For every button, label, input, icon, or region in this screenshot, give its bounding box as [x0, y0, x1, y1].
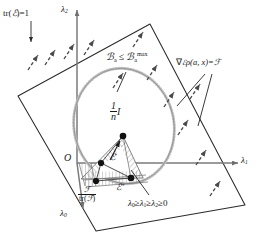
s-over-trace-s-label: ℱ tr(ℱ) [78, 186, 96, 203]
trace-constraint-label: tr(ℰ)=1 [3, 9, 29, 18]
identity-point-label: 1 n I [110, 101, 120, 122]
le-symbol: ≤ [117, 51, 127, 62]
a-double-prime-label: ℰ″ [116, 183, 125, 192]
leader-gradient-b [198, 74, 212, 126]
dot-a-prime [98, 160, 104, 166]
figure-canvas: tr(ℰ)=1 λ2 λ1 λ0 O ℬa≤ℬamax ∇ℰρ(a, x)=ℱ … [0, 0, 259, 237]
dot-a-double-prime [128, 175, 135, 182]
a-prime-label: ℰ′ [110, 153, 117, 162]
identity-suffix: I [117, 106, 120, 117]
script-s-gradient: ℱ [214, 57, 221, 67]
origin-label: O [64, 153, 71, 163]
dot-s-over-trs [93, 178, 99, 184]
gradient-label: ∇ℰρ(a, x)=ℱ [176, 58, 221, 67]
lambda2-axis-label: λ2 [61, 5, 68, 15]
script-d-left: ℬ [106, 51, 114, 62]
dot-identity [120, 133, 127, 140]
trace-s-den: tr(ℱ) [78, 195, 96, 203]
d-constraint-label: ℬa≤ℬamax [106, 51, 148, 63]
lambda0-axis-label: λ0 [60, 209, 67, 219]
eigenvalue-ordering-label: λ0≥λ1≥λ2≥0 [128, 199, 167, 209]
lambda1-axis-label: λ1 [241, 156, 248, 166]
